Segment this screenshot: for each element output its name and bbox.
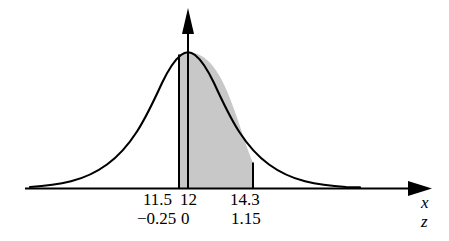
tick-label-z-right: 1.15 bbox=[231, 210, 261, 227]
z-axis-label: z bbox=[421, 213, 428, 230]
tick-label-z-mean: 0 bbox=[181, 210, 190, 227]
tick-label-z-left: −0.25 bbox=[137, 210, 176, 227]
vertical-axis-arrowhead bbox=[182, 8, 194, 34]
tick-label-x-right: 14.3 bbox=[230, 191, 260, 208]
tick-label-x-left: 11.5 bbox=[143, 191, 172, 208]
normal-curve-plot bbox=[0, 0, 449, 241]
x-axis-label: x bbox=[421, 194, 429, 211]
normal-distribution-figure: 11.5 12 14.3 −0.25 0 1.15 x z bbox=[0, 0, 449, 241]
shaded-area-region bbox=[179, 52, 253, 188]
tick-label-x-mean: 12 bbox=[180, 191, 197, 208]
